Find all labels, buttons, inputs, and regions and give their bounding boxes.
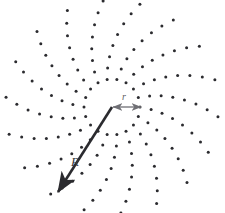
- pattern-dot: [91, 199, 94, 202]
- pattern-dot: [194, 103, 197, 106]
- pattern-dot: [38, 113, 41, 116]
- pattern-dot: [90, 47, 93, 50]
- pattern-dot: [102, 0, 105, 2]
- pattern-dot: [181, 124, 184, 127]
- pattern-dot: [82, 78, 85, 81]
- pattern-dot: [160, 94, 163, 97]
- pattern-dot: [161, 53, 164, 56]
- pattern-dot: [141, 39, 144, 42]
- pattern-dot: [80, 172, 83, 175]
- pattern-dot: [33, 137, 36, 140]
- pattern-dot: [155, 177, 158, 180]
- outer-radius-arrow: [58, 107, 112, 192]
- pattern-dot: [48, 162, 51, 165]
- pattern-dot: [5, 96, 8, 99]
- pattern-dot: [145, 142, 148, 145]
- pattern-dot: [146, 121, 149, 124]
- pattern-dot: [105, 178, 108, 181]
- pattern-dot: [89, 163, 92, 166]
- dot-pattern-group: [5, 0, 220, 213]
- pattern-dot: [106, 67, 109, 70]
- pattern-dot: [153, 78, 156, 81]
- pattern-dot: [185, 181, 188, 184]
- pattern-dot: [80, 146, 83, 149]
- pattern-dot: [116, 33, 119, 36]
- pattern-dot: [15, 103, 18, 106]
- spiral-figure-svg: R r: [0, 0, 225, 213]
- pattern-dot: [172, 19, 175, 22]
- pattern-dot: [58, 74, 61, 77]
- pattern-dot: [148, 94, 151, 97]
- pattern-dot: [155, 202, 158, 205]
- pattern-dot: [115, 144, 118, 147]
- pattern-dot: [141, 65, 144, 68]
- pattern-dot: [199, 141, 202, 144]
- pattern-dot: [50, 94, 53, 97]
- pattern-dot: [45, 137, 48, 140]
- pattern-dot: [173, 49, 176, 52]
- vector-group: [58, 107, 141, 192]
- pattern-dot: [97, 11, 100, 14]
- pattern-dot: [101, 144, 104, 147]
- pattern-dot: [122, 22, 125, 25]
- pattern-dot: [156, 189, 159, 192]
- pattern-dot: [20, 136, 23, 139]
- pattern-dot: [68, 46, 71, 49]
- pattern-dot: [61, 117, 64, 120]
- pattern-dot: [198, 45, 201, 48]
- pattern-dot: [125, 130, 128, 133]
- pattern-dot: [83, 208, 86, 211]
- pattern-dot: [57, 136, 60, 139]
- pattern-dot: [44, 54, 47, 57]
- pattern-dot: [61, 99, 64, 102]
- pattern-dot: [68, 133, 71, 136]
- pattern-dot: [99, 189, 102, 192]
- pattern-dot: [207, 151, 210, 154]
- pattern-dot: [97, 81, 100, 84]
- pattern-dot: [40, 87, 43, 90]
- pattern-dot: [111, 44, 114, 47]
- pattern-dot: [153, 165, 156, 168]
- pattern-dot: [110, 167, 113, 170]
- figure-canvas: R r: [0, 0, 225, 213]
- pattern-dot: [139, 133, 142, 136]
- pattern-dot: [120, 67, 123, 70]
- pattern-dot: [150, 108, 153, 111]
- pattern-dot: [150, 31, 153, 34]
- pattern-dot: [72, 58, 75, 61]
- pattern-dot: [164, 75, 167, 78]
- pattern-dot: [106, 133, 109, 136]
- pattern-dot: [108, 55, 111, 58]
- pattern-dot: [23, 166, 26, 169]
- pattern-dot: [22, 70, 25, 73]
- pattern-dot: [183, 98, 186, 101]
- pattern-dot: [137, 96, 140, 99]
- pattern-dot: [188, 74, 191, 77]
- pattern-dot: [60, 158, 63, 161]
- pattern-dot: [115, 133, 118, 136]
- pattern-dot: [182, 169, 185, 172]
- pattern-dot: [155, 129, 158, 132]
- pattern-dot: [163, 137, 166, 140]
- pattern-dot: [130, 176, 133, 179]
- pattern-dot: [71, 180, 74, 183]
- pattern-dot: [176, 74, 179, 77]
- pattern-dot: [142, 82, 145, 85]
- pattern-dot: [128, 141, 131, 144]
- pattern-dot: [138, 3, 141, 6]
- pattern-dot: [91, 35, 94, 38]
- pattern-dot: [216, 115, 219, 118]
- inner-radius-label: r: [122, 91, 126, 102]
- pattern-dot: [31, 80, 34, 83]
- pattern-dot: [49, 192, 52, 195]
- pattern-dot: [113, 156, 116, 159]
- pattern-dot: [132, 48, 135, 51]
- pattern-dot: [161, 112, 164, 115]
- pattern-dot: [83, 106, 86, 109]
- pattern-dot: [84, 96, 87, 99]
- pattern-dot: [132, 124, 135, 127]
- pattern-dot: [79, 129, 82, 132]
- pattern-dot: [132, 88, 135, 91]
- outer-radius-label: R: [70, 154, 79, 169]
- pattern-dot: [130, 152, 133, 155]
